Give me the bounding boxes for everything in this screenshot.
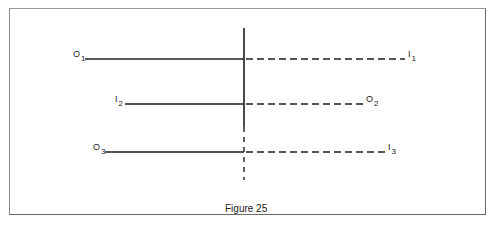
label-o1: O1 (73, 50, 85, 59)
label-subscript: 1 (412, 54, 416, 63)
label-i3: I3 (388, 143, 396, 152)
label-subscript: 3 (101, 147, 105, 156)
label-letter: O (93, 142, 100, 152)
label-subscript: 1 (81, 54, 85, 63)
figure-caption: Figure 25 (225, 203, 267, 214)
label-i1: I1 (408, 50, 416, 59)
label-subscript: 3 (392, 147, 396, 156)
label-subscript: 2 (119, 99, 123, 108)
ray-diagram (0, 0, 493, 227)
label-letter: I (408, 49, 411, 59)
label-letter: I (115, 94, 118, 104)
label-letter: I (388, 142, 391, 152)
label-letter: O (73, 49, 80, 59)
label-subscript: 2 (374, 99, 378, 108)
label-letter: O (366, 94, 373, 104)
label-i2: I2 (115, 95, 123, 104)
label-o2: O2 (366, 95, 378, 104)
label-o3: O3 (93, 143, 105, 152)
